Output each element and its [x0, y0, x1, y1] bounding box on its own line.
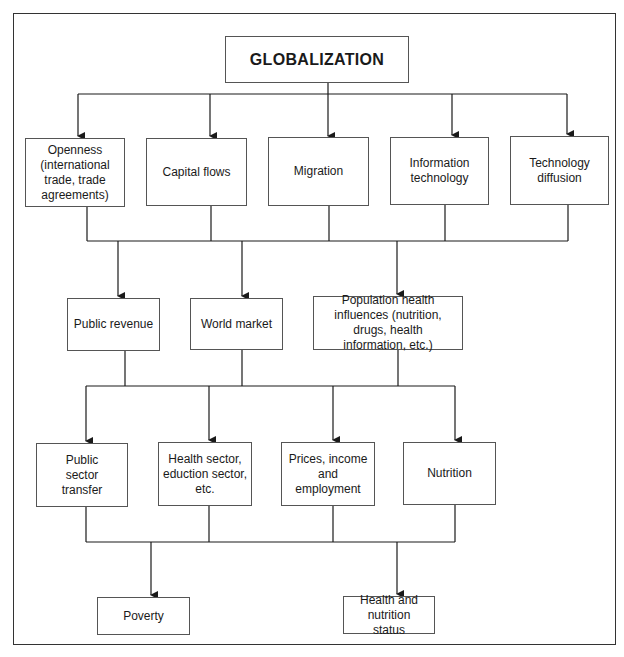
node-label: Public sector transfer [49, 453, 115, 498]
node-label: Capital flows [162, 165, 230, 180]
node-information-technology: Information technology [390, 137, 489, 205]
node-label: Openness (international trade, trade agr… [28, 143, 122, 203]
node-technology-diffusion: Technology diffusion [510, 136, 609, 205]
node-world-market: World market [190, 298, 283, 350]
node-label: Information technology [405, 156, 474, 186]
node-globalization: GLOBALIZATION [225, 36, 409, 83]
node-public-sector-transfer: Public sector transfer [36, 443, 128, 507]
node-poverty: Poverty [97, 597, 190, 635]
node-label: GLOBALIZATION [250, 52, 384, 67]
node-migration: Migration [268, 137, 369, 206]
node-label: Technology diffusion [523, 156, 596, 186]
node-prices-income-employment: Prices, income and employment [281, 442, 375, 506]
node-label: Poverty [123, 609, 164, 624]
node-label: Public revenue [74, 317, 153, 332]
node-label: World market [201, 317, 272, 332]
node-population-health-influences: Population health influences (nutrition,… [313, 296, 463, 350]
node-label: Prices, income and employment [288, 452, 368, 497]
node-label: Nutrition [427, 466, 472, 481]
node-label: Migration [294, 164, 343, 179]
node-label: Health sector, eduction sector, etc. [161, 452, 249, 497]
node-label: Population health influences (nutrition,… [322, 293, 454, 353]
node-label: Health and nutrition status [350, 593, 428, 638]
node-capital-flows: Capital flows [146, 138, 247, 206]
node-openness: Openness (international trade, trade agr… [25, 138, 125, 207]
node-health-education-sector: Health sector, eduction sector, etc. [158, 442, 252, 506]
node-public-revenue: Public revenue [67, 298, 160, 351]
node-health-nutrition-status: Health and nutrition status [343, 596, 435, 634]
node-nutrition: Nutrition [403, 442, 496, 505]
